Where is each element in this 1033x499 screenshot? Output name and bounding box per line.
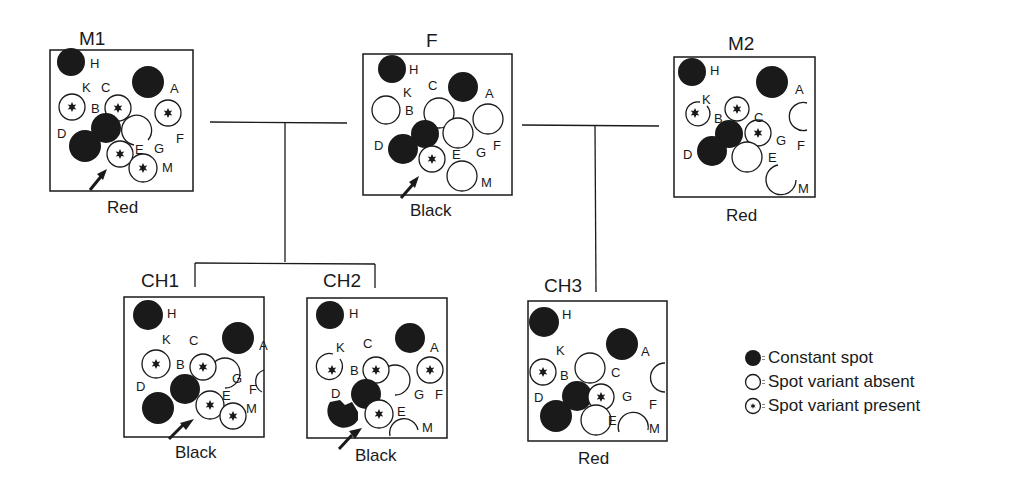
svg-text:G: G (622, 389, 632, 404)
svg-text:H: H (409, 62, 418, 77)
svg-text:A: A (430, 340, 439, 355)
individual-m1: M1 HKCA BDGF EM Red (50, 28, 193, 217)
svg-text:D: D (534, 390, 543, 405)
svg-text:B: B (405, 103, 414, 118)
svg-text:C: C (363, 336, 372, 351)
spot-a-constant (395, 323, 425, 353)
legend-label: Constant spot (768, 348, 873, 368)
svg-text:E: E (222, 388, 231, 403)
svg-text:E: E (452, 147, 461, 162)
svg-text:D: D (331, 386, 340, 401)
individual-label: CH3 (544, 275, 582, 296)
svg-text:H: H (90, 56, 99, 71)
svg-text:C: C (428, 78, 437, 93)
spot-h-constant (133, 300, 163, 330)
svg-text:E: E (768, 150, 777, 165)
spot-f-absent (789, 103, 807, 131)
svg-text:F: F (435, 387, 443, 402)
spot-d-constant (388, 134, 418, 164)
svg-text:A: A (259, 338, 268, 353)
spot-m-absent (447, 161, 477, 191)
phenotype-label: Red (107, 198, 138, 217)
svg-text:M: M (481, 175, 492, 190)
svg-text:H: H (562, 307, 571, 322)
individual-ch2: CH2 HKCA BDGF EM Black (307, 270, 447, 465)
legend: Constant spot Spot variant absent Spot v… (744, 346, 920, 418)
svg-text:B: B (714, 111, 723, 126)
svg-text:K: K (336, 340, 345, 355)
svg-text:H: H (349, 306, 358, 321)
phenotype-label: Red (578, 449, 609, 468)
individual-ch1: CH1 HKCA BDGF EM Black (124, 270, 268, 462)
spot-k-present (316, 353, 342, 379)
svg-text:K: K (556, 343, 565, 358)
legend-label: Spot variant present (768, 396, 920, 416)
spot-c-absent (575, 353, 605, 383)
svg-text:M: M (162, 160, 173, 175)
svg-text:C: C (101, 80, 110, 95)
spot-m-absent (766, 165, 796, 195)
svg-text:K: K (162, 332, 171, 347)
cross-line-m1-f (210, 122, 347, 123)
individual-label: M2 (728, 33, 754, 54)
svg-text:D: D (374, 138, 383, 153)
svg-text:A: A (170, 81, 179, 96)
svg-text:K: K (82, 80, 91, 95)
svg-text:B: B (350, 363, 359, 378)
individual-label: CH2 (323, 270, 361, 291)
open-circle-icon (744, 372, 766, 392)
spot-h-constant (57, 48, 85, 76)
spot-h-constant (316, 301, 344, 329)
spot-d-constant (327, 400, 358, 428)
spot-d-constant (69, 130, 101, 162)
svg-text:D: D (57, 126, 66, 141)
arrow-head-icon (180, 419, 194, 430)
svg-text:E: E (397, 404, 406, 419)
spot-e-absent (732, 142, 762, 172)
phenotype-label: Black (175, 443, 217, 462)
phenotype-label: Black (355, 446, 397, 465)
svg-text:D: D (136, 379, 145, 394)
spot-a-constant (756, 66, 788, 98)
spot-d-constant (540, 400, 572, 432)
sibship-line-1 (195, 263, 375, 264)
svg-text:F: F (249, 382, 257, 397)
individual-label: M1 (79, 28, 105, 49)
individual-ch3: CH3 HKBC ADGF EM Red (528, 275, 667, 468)
star-circle-icon (744, 396, 766, 416)
svg-text:M: M (246, 401, 257, 416)
svg-text:B: B (176, 357, 185, 372)
svg-text:M: M (798, 181, 809, 196)
svg-text:F: F (649, 397, 657, 412)
spot-f-absent (651, 363, 666, 392)
spot-a-constant (448, 72, 478, 102)
pedigree-diagram: M1 HKCA BDGF EM Red F H (0, 0, 1033, 499)
svg-text:G: G (232, 371, 242, 386)
svg-text:A: A (641, 344, 650, 359)
svg-text:G: G (154, 141, 164, 156)
svg-text:C: C (754, 110, 763, 125)
cross-line-f-m2 (522, 125, 659, 126)
spot-a-constant (606, 328, 638, 360)
spot-f-absent (473, 104, 503, 134)
spot-g-absent (122, 115, 152, 145)
legend-item-present: Spot variant present (744, 394, 920, 418)
svg-text:B: B (91, 101, 100, 116)
individual-m2: M2 HKBC ADGF EM Red (674, 33, 815, 225)
svg-text:K: K (403, 85, 412, 100)
spot-e-absent (581, 405, 611, 435)
svg-text:A: A (485, 86, 494, 101)
svg-text:G: G (414, 387, 424, 402)
spot-b-constant (170, 374, 200, 404)
svg-text:M: M (422, 420, 433, 435)
spot-a-constant (222, 322, 254, 354)
svg-text:F: F (176, 131, 184, 146)
svg-text:G: G (476, 145, 486, 160)
spot-g-absent (443, 118, 473, 148)
phenotype-label: Black (410, 201, 452, 220)
svg-text:K: K (702, 92, 711, 107)
legend-label: Spot variant absent (768, 372, 914, 392)
spot-h-constant (378, 55, 406, 83)
svg-text:C: C (611, 365, 620, 380)
arrow-icon (339, 435, 352, 449)
